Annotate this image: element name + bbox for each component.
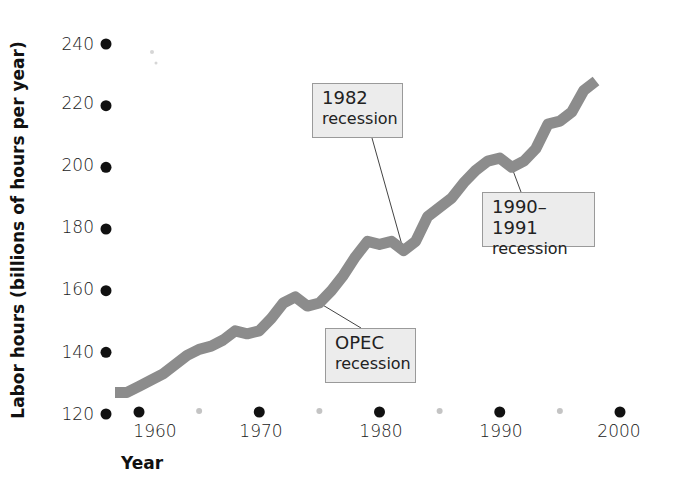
annotation-1982-line1: 1982	[322, 87, 394, 108]
annotation-opec-line1: OPEC	[335, 332, 407, 353]
x-tick-label-1980: 1980	[346, 422, 416, 440]
leader-line-r1982	[372, 138, 404, 251]
y-tick-label-120: 120	[44, 405, 94, 423]
x-tick-dot	[254, 407, 265, 418]
annotation-1990-line1: 1990–1991	[492, 196, 586, 238]
x-tick-label-2000: 2000	[584, 422, 654, 440]
x-tick-label-1960: 1960	[120, 422, 190, 440]
y-tick-label-140: 140	[44, 343, 94, 361]
annotation-1990-1991-recession: 1990–1991 recession	[482, 192, 595, 247]
annotation-1982-recession: 1982 recession	[312, 83, 403, 138]
y-tick-label-160: 160	[44, 280, 94, 298]
annotation-opec-recession: OPEC recession	[325, 328, 416, 383]
y-tick-dot	[101, 285, 112, 296]
x-tick-label-1990: 1990	[466, 422, 536, 440]
x-tick-dot	[615, 407, 626, 418]
y-tick-dot	[101, 100, 112, 111]
y-tick-dot	[101, 409, 112, 420]
y-tick-dot	[101, 224, 112, 235]
y-tick-label-180: 180	[44, 218, 94, 236]
y-tick-dot	[101, 162, 112, 173]
y-tick-label-200: 200	[44, 156, 94, 174]
y-tick-dot	[101, 347, 112, 358]
x-tick-dot	[494, 407, 505, 418]
y-axis-tick-markers	[101, 39, 112, 420]
leader-line-opec	[319, 303, 361, 328]
x-minor-tick-dot	[196, 408, 202, 414]
x-minor-tick-dot	[316, 408, 322, 414]
x-axis-tick-markers	[134, 407, 626, 418]
y-tick-label-240: 240	[44, 35, 94, 53]
y-tick-label-220: 220	[44, 94, 94, 112]
y-axis-title: Labor hours (billions of hours per year)	[8, 41, 28, 418]
annotation-opec-line2: recession	[335, 353, 407, 374]
x-tick-dot	[134, 407, 145, 418]
x-minor-tick-dot	[557, 408, 563, 414]
x-tick-label-1970: 1970	[226, 422, 296, 440]
scan-speck	[155, 62, 158, 65]
x-minor-tick-dot	[437, 408, 443, 414]
x-tick-dot	[374, 407, 385, 418]
scan-speck	[150, 50, 154, 54]
annotation-1982-line2: recession	[322, 108, 394, 129]
x-axis-title: Year	[121, 453, 163, 473]
y-tick-dot	[101, 39, 112, 50]
annotation-1990-line2: recession	[492, 238, 586, 259]
